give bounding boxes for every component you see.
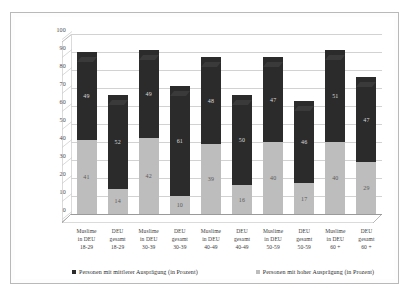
bar-segment-hohe-auspraegung[interactable]: 40 — [263, 142, 283, 214]
x-axis-label-line: 60 + — [318, 243, 352, 251]
bar-value-label: 47 — [363, 117, 369, 123]
y-tick-label-0: 0 — [63, 207, 66, 213]
bar-top-cap — [170, 82, 190, 86]
bar-segment-mittlere-auspraegung[interactable]: 50 — [232, 95, 252, 185]
x-axis-label-line: 18-29 — [101, 243, 135, 251]
x-axis-label-line: Muslime — [318, 227, 352, 235]
bar-value-label: 49 — [146, 91, 152, 97]
x-axis-label-line: DEU — [101, 227, 135, 235]
bar-segment-hohe-auspraegung[interactable]: 10 — [170, 196, 190, 214]
x-axis-label-line: 30-39 — [132, 243, 166, 251]
x-axis-label-line: 40-49 — [225, 243, 259, 251]
bar-value-label: 40 — [270, 175, 276, 181]
x-axis-label-line: 30-39 — [163, 243, 197, 251]
x-axis-label: DEUgesamt40-49 — [225, 227, 259, 251]
x-axis-label-line: in DEU — [256, 235, 290, 243]
bar-segment-mittlere-auspraegung[interactable]: 49 — [139, 50, 159, 138]
y-tick-label-80: 80 — [60, 63, 66, 69]
x-axis-label-line: 18-29 — [70, 243, 104, 251]
y-tick-label-70: 70 — [60, 81, 66, 87]
bar-value-label: 10 — [177, 202, 183, 208]
x-axis-label-line: 50-59 — [256, 243, 290, 251]
bar-top-cap — [325, 46, 345, 50]
y-tick-label-40: 40 — [60, 135, 66, 141]
bar-segment-hohe-auspraegung[interactable]: 42 — [139, 138, 159, 214]
x-axis-label-line: 60 + — [349, 243, 383, 251]
bar-value-label: 14 — [114, 198, 120, 204]
x-axis-label-line: Muslime — [256, 227, 290, 235]
bar-segment-mittlere-auspraegung[interactable]: 48 — [201, 57, 221, 143]
chart-image-frame: 0102030405060708090100 41491452424910613… — [10, 12, 399, 284]
x-axis-label-line: in DEU — [70, 235, 104, 243]
bar-segment-mittlere-auspraegung[interactable]: 61 — [170, 86, 190, 196]
x-axis-label-line: in DEU — [318, 235, 352, 243]
legend-label-mittlere: Personen mit mittlerer Ausprägung (in Pr… — [79, 269, 198, 275]
bar-value-label: 51 — [332, 93, 338, 99]
bar-top-cap — [139, 46, 159, 50]
bar-segment-hohe-auspraegung[interactable]: 40 — [325, 142, 345, 214]
bar-segment-hohe-auspraegung[interactable]: 14 — [108, 189, 128, 214]
bar-segment-hohe-auspraegung[interactable]: 29 — [356, 162, 376, 214]
bar-top-cap — [108, 91, 128, 95]
bar-value-label: 46 — [301, 139, 307, 145]
y-tick-label-50: 50 — [60, 117, 66, 123]
x-axis-label-line: 50-59 — [287, 243, 321, 251]
bar-value-label: 42 — [146, 173, 152, 179]
legend-item-mittlere[interactable]: Personen mit mittlerer Ausprägung (in Pr… — [72, 269, 198, 275]
bar-value-label: 49 — [83, 93, 89, 99]
x-axis-label-line: in DEU — [132, 235, 166, 243]
bar-segment-mittlere-auspraegung[interactable]: 52 — [108, 95, 128, 189]
legend-label-hohe: Personen mit hoher Ausprägung (in Prozen… — [263, 269, 374, 275]
bar-top-cap — [201, 53, 221, 57]
x-axis-label-line: DEU — [349, 227, 383, 235]
bar-segment-hohe-auspraegung[interactable]: 16 — [232, 185, 252, 214]
bar-segment-mittlere-auspraegung[interactable]: 51 — [325, 50, 345, 142]
x-axis-label-line: gesamt — [225, 235, 259, 243]
x-axis-label: Muslimein DEU60 + — [318, 227, 352, 251]
x-axis-label-line: Muslime — [194, 227, 228, 235]
bar-top-cap — [263, 53, 283, 57]
legend-swatch-icon-mittlere — [72, 270, 76, 274]
bar-segment-mittlere-auspraegung[interactable]: 46 — [294, 101, 314, 184]
bar-segment-mittlere-auspraegung[interactable]: 47 — [356, 77, 376, 162]
x-axis-label: Muslimein DEU40-49 — [194, 227, 228, 251]
floor-shape — [62, 214, 382, 223]
bar-value-label: 16 — [239, 197, 245, 203]
bar-series-container: 4149145242491061394816504047174640512947 — [71, 34, 382, 214]
x-axis-label: Muslimein DEU30-39 — [132, 227, 166, 251]
x-axis-label-line: gesamt — [287, 235, 321, 243]
x-axis-label-line: gesamt — [349, 235, 383, 243]
bar-segment-hohe-auspraegung[interactable]: 17 — [294, 183, 314, 214]
x-axis-label-line: DEU — [287, 227, 321, 235]
bar-value-label: 17 — [301, 196, 307, 202]
legend-swatch-icon-hohe — [256, 270, 260, 274]
y-tick-label-60: 60 — [60, 99, 66, 105]
x-axis-label: Muslimein DEU18-29 — [70, 227, 104, 251]
bar-value-label: 52 — [114, 139, 120, 145]
bar-value-label: 39 — [208, 176, 214, 182]
legend-item-hohe[interactable]: Personen mit hoher Ausprägung (in Prozen… — [256, 269, 374, 275]
x-axis-label-line: DEU — [225, 227, 259, 235]
bar-segment-mittlere-auspraegung[interactable]: 47 — [263, 57, 283, 142]
x-axis-label: DEUgesamt60 + — [349, 227, 383, 251]
x-axis-label-line: 40-49 — [194, 243, 228, 251]
chart-canvas: 0102030405060708090100 41491452424910613… — [15, 17, 394, 279]
bar-value-label: 41 — [83, 174, 89, 180]
bar-segment-mittlere-auspraegung[interactable]: 49 — [77, 52, 97, 140]
plot-floor-panel — [62, 214, 382, 223]
bar-segment-hohe-auspraegung[interactable]: 41 — [77, 140, 97, 214]
x-axis-label: DEUgesamt30-39 — [163, 227, 197, 251]
x-axis-label-line: DEU — [163, 227, 197, 235]
bar-value-label: 40 — [332, 175, 338, 181]
x-axis-label: DEUgesamt50-59 — [287, 227, 321, 251]
bar-top-cap — [77, 48, 97, 52]
bar-segment-hohe-auspraegung[interactable]: 39 — [201, 144, 221, 214]
y-tick-label-10: 10 — [60, 189, 66, 195]
y-tick-label-100: 100 — [56, 27, 66, 33]
screenshot-root: 0102030405060708090100 41491452424910613… — [0, 0, 410, 296]
y-tick-label-90: 90 — [60, 45, 66, 51]
bar-top-cap — [294, 97, 314, 101]
x-axis-label: DEUgesamt18-29 — [101, 227, 135, 251]
bar-value-label: 47 — [270, 97, 276, 103]
x-axis-category-labels: Muslimein DEU18-29DEUgesamt18-29Muslimei… — [62, 227, 382, 257]
